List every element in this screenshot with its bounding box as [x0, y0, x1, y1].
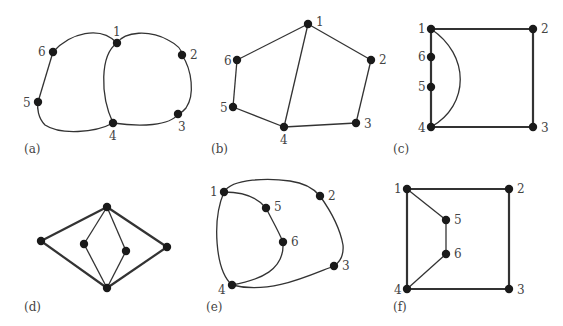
node-label: 5 [274, 200, 282, 214]
node-label: 3 [342, 259, 350, 273]
node-f-5 [442, 216, 450, 224]
edge-e-6-4 [232, 242, 283, 285]
edge-f-1-5 [407, 189, 446, 220]
node-label: 6 [291, 235, 299, 249]
node-label: 2 [379, 53, 387, 67]
node-e-6 [279, 238, 287, 246]
node-e-4 [228, 281, 236, 289]
panel-c: 1 2 3 4 5 6 (c) [393, 22, 549, 156]
panel-caption: (a) [24, 142, 41, 156]
node-label: 2 [328, 189, 336, 203]
panel-caption: (c) [393, 142, 409, 156]
node-label: 1 [394, 182, 402, 196]
node-c-4 [427, 123, 435, 131]
node-label: 3 [517, 283, 525, 297]
node-e-1 [220, 188, 228, 196]
node-f-1 [403, 185, 411, 193]
node-label: 2 [541, 22, 549, 36]
node-c-1 [427, 25, 435, 33]
node-e-3 [330, 262, 338, 270]
node-b-2 [367, 56, 375, 64]
node-label: 3 [178, 120, 186, 134]
edge-d-left-bottom [41, 241, 107, 288]
node-a-4 [109, 119, 117, 127]
panel-caption: (f) [393, 300, 407, 314]
edge-d-innerleft-bottom [84, 244, 107, 288]
node-label: 4 [280, 133, 288, 147]
panel-d: (d) [24, 203, 171, 314]
edge-f-6-4 [407, 254, 446, 289]
graph-figure: 1 2 3 4 5 6 (a) 1 2 3 4 5 6 (b) [0, 0, 563, 326]
node-label: 5 [23, 96, 31, 110]
node-label: 5 [454, 213, 462, 227]
node-f-4 [403, 285, 411, 293]
node-b-4 [280, 123, 288, 131]
node-label: 2 [190, 48, 198, 62]
panel-caption: (b) [211, 142, 228, 156]
node-f-6 [442, 250, 450, 258]
node-c-3 [529, 123, 537, 131]
edge-b-2-3 [356, 60, 371, 123]
panel-caption: (d) [24, 300, 41, 314]
node-b-5 [229, 103, 237, 111]
node-b-1 [304, 20, 312, 28]
node-a-5 [34, 98, 42, 106]
node-e-5 [262, 204, 270, 212]
panel-a: 1 2 3 4 5 6 (a) [23, 25, 198, 156]
edge-a-1-4 [104, 43, 117, 123]
node-d-right [163, 243, 171, 251]
node-label: 1 [113, 25, 121, 39]
node-a-3 [174, 110, 182, 118]
edge-a-5-6 [38, 52, 53, 102]
node-a-1 [113, 39, 121, 47]
node-label: 1 [210, 185, 218, 199]
edge-b-4-5 [233, 107, 284, 127]
node-d-inner-left [80, 240, 88, 248]
edge-e-1-5 [224, 192, 266, 208]
node-label: 4 [394, 283, 402, 297]
edge-a-3-4 [113, 114, 178, 125]
panel-b: 1 2 3 4 5 6 (b) [211, 15, 387, 156]
node-e-2 [316, 192, 324, 200]
node-c-5 [427, 83, 435, 91]
node-f-3 [505, 285, 513, 293]
edge-d-bottom-right [107, 247, 167, 288]
node-label: 5 [418, 80, 426, 94]
node-d-bottom [103, 284, 111, 292]
node-label: 2 [517, 182, 525, 196]
node-label: 1 [316, 15, 324, 29]
node-d-left [37, 237, 45, 245]
edge-e-3-4 [232, 266, 334, 288]
edge-b-3-4 [284, 123, 356, 127]
edge-c-1-4 [431, 29, 460, 127]
node-a-2 [178, 51, 186, 59]
edge-e-4-1 [217, 192, 232, 285]
edge-a-2-3 [178, 55, 191, 114]
node-label: 4 [418, 121, 426, 135]
node-label: 5 [220, 101, 228, 115]
panel-caption: (e) [206, 300, 222, 314]
edge-b-1-2 [308, 24, 371, 60]
edge-b-6-1 [237, 24, 308, 60]
node-label: 4 [218, 283, 226, 297]
node-label: 3 [364, 117, 372, 131]
edge-b-5-6 [233, 60, 237, 107]
node-label: 6 [454, 247, 462, 261]
edge-a-4-5 [38, 102, 113, 132]
node-a-6 [49, 48, 57, 56]
node-c-2 [529, 25, 537, 33]
node-c-6 [427, 53, 435, 61]
edge-e-2-3 [320, 196, 343, 266]
node-f-2 [505, 185, 513, 193]
node-label: 4 [109, 129, 117, 143]
panel-e: 1 2 3 4 5 6 (e) [206, 179, 350, 314]
edge-b-1-4 [284, 24, 308, 127]
panel-f: 1 2 3 4 5 6 (f) [393, 182, 525, 314]
node-d-inner-right [122, 247, 130, 255]
edge-a-1-2 [117, 33, 182, 55]
node-label: 6 [38, 45, 46, 59]
node-b-6 [233, 56, 241, 64]
edge-a-6-1 [53, 33, 117, 52]
node-label: 6 [418, 50, 426, 64]
node-d-top [103, 203, 111, 211]
